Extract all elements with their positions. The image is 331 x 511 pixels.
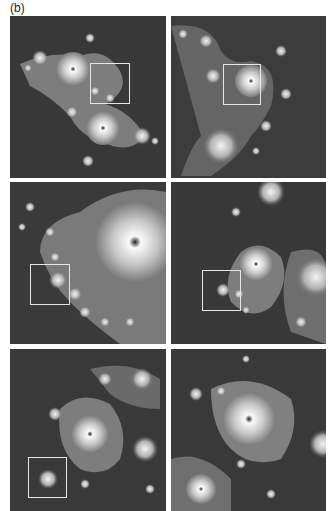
zoom-region-box [28, 457, 67, 498]
fractal-panel-1 [10, 16, 166, 178]
zoom-region-box [223, 64, 261, 105]
julia-set-image [10, 16, 166, 178]
fractal-panel-2 [171, 16, 326, 178]
fractal-panel-4 [171, 182, 326, 344]
zoom-region-box [30, 264, 70, 305]
julia-set-image [10, 182, 166, 344]
zoom-region-box [90, 63, 130, 104]
zoom-region-box [202, 270, 241, 311]
figure-label: (b) [10, 1, 25, 15]
fractal-panel-6 [171, 349, 326, 511]
julia-set-image [171, 182, 326, 344]
julia-set-image [171, 349, 326, 511]
fractal-panel-3 [10, 182, 166, 344]
fractal-panel-5 [10, 349, 166, 511]
